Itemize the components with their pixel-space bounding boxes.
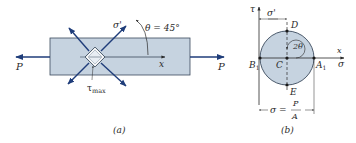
point-E-label: E [289, 87, 297, 97]
dim-bottom-num: P [292, 99, 299, 108]
point-C-label: C [276, 60, 283, 70]
tau-axis-label: τ [250, 4, 256, 14]
point-D-label: D [290, 20, 298, 30]
figure-b: τ x σ σ' D E C B1 A1 2θ σ = P A (b) [248, 4, 345, 135]
point-A1-label: A1 [315, 60, 326, 71]
sigma-axis-label: σ [338, 59, 345, 69]
caption-b: (b) [281, 125, 294, 135]
point-B1 [258, 56, 261, 59]
x-axis-label-b: x [337, 46, 342, 55]
dim-top-label: σ' [267, 8, 276, 18]
normal-stress-label: σ' [113, 20, 122, 30]
angle-label-2theta: 2θ [292, 42, 303, 51]
angle-label: θ = 45° [145, 23, 180, 33]
caption-a: (a) [113, 125, 126, 135]
figure-a: P P x θ = 45° σ' τmax (a) [15, 20, 225, 135]
shear-stress-label: τmax [87, 83, 106, 95]
point-E [285, 83, 288, 86]
x-axis-label: x [159, 59, 164, 69]
diagram-canvas: P P x θ = 45° σ' τmax (a) τ x [0, 0, 356, 143]
point-B1-label: B1 [248, 60, 259, 71]
point-D [285, 29, 288, 32]
dim-bottom-lhs: σ = [270, 105, 287, 115]
dim-bottom-den: A [291, 112, 298, 121]
load-label-left: P [15, 61, 23, 72]
bar [50, 38, 190, 75]
load-label-right: P [217, 61, 225, 72]
point-C [285, 56, 288, 59]
